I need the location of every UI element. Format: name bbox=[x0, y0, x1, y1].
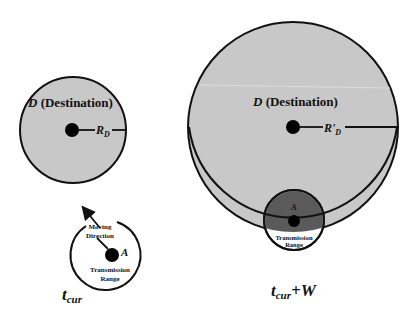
right-node-label: A bbox=[290, 203, 297, 212]
destination-node-dot-future bbox=[286, 120, 300, 134]
left-transmission-label: TransmissionRange bbox=[90, 266, 130, 283]
moving-direction-label: MovingDirection bbox=[86, 223, 114, 240]
destination-node-dot bbox=[65, 123, 79, 137]
right-destination-label: D (Destination) bbox=[252, 94, 338, 109]
left-destination-region bbox=[20, 77, 126, 183]
left-node-label: A bbox=[120, 246, 128, 258]
left-destination-label: D (Destination) bbox=[27, 95, 113, 110]
node-a-dot-future bbox=[288, 215, 300, 227]
diagram-canvas: D (Destination) RD MovingDirection A Tra… bbox=[0, 0, 418, 311]
diagram-svg: D (Destination) RD MovingDirection A Tra… bbox=[0, 0, 418, 311]
node-a-dot bbox=[105, 248, 119, 262]
right-time-label: tcur+W bbox=[271, 281, 318, 301]
left-time-label: tcur bbox=[62, 285, 83, 305]
